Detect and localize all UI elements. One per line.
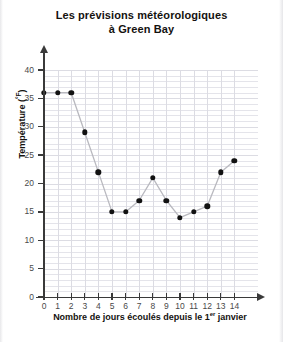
chart-title-line-1: Les prévisions météorologiques xyxy=(56,9,228,21)
x-axis-title-text-end: janvier xyxy=(215,312,247,322)
y-axis-tick-label: 15 xyxy=(0,206,34,216)
y-axis-tick-label: 0 xyxy=(0,292,34,302)
y-axis-tick xyxy=(38,154,44,155)
y-axis-tick-label: 35 xyxy=(0,93,34,103)
x-axis-tick xyxy=(98,293,99,300)
x-axis-tick xyxy=(57,293,58,300)
x-axis-line xyxy=(36,297,258,299)
x-axis-tick xyxy=(152,293,153,300)
x-axis-tick xyxy=(234,293,235,300)
x-axis-tick xyxy=(220,293,221,300)
x-axis-tick-label: 14 xyxy=(226,301,242,311)
y-axis-tick-label: 30 xyxy=(0,121,34,131)
x-axis-tick xyxy=(179,293,180,300)
chart-title: Les prévisions météorologiques à Green B… xyxy=(0,8,283,36)
chart-figure: Les prévisions météorologiques à Green B… xyxy=(0,0,283,342)
x-axis-tick xyxy=(139,293,140,300)
x-axis-tick xyxy=(111,293,112,300)
x-axis-tick xyxy=(207,293,208,300)
y-axis-tick-label: 20 xyxy=(0,178,34,188)
x-axis-tick xyxy=(193,293,194,300)
x-axis-arrow-icon xyxy=(257,293,265,301)
plot-area xyxy=(44,70,258,297)
y-axis-tick xyxy=(38,126,44,127)
y-axis-tick xyxy=(38,268,44,269)
x-axis-tick xyxy=(125,293,126,300)
x-axis-tick xyxy=(43,293,44,300)
y-axis-tick xyxy=(38,240,44,241)
y-axis-arrow-icon xyxy=(40,45,48,53)
y-axis-tick xyxy=(38,98,44,99)
series-line xyxy=(44,70,258,297)
y-axis-tick xyxy=(38,183,44,184)
x-axis-tick xyxy=(84,293,85,300)
x-axis-tick xyxy=(166,293,167,300)
chart-title-line-2: à Green Bay xyxy=(0,22,283,36)
y-axis-tick-label: 25 xyxy=(0,150,34,160)
y-axis-tick xyxy=(38,69,44,70)
y-axis-tick-label: 40 xyxy=(0,65,34,75)
y-axis-tick xyxy=(38,211,44,212)
y-axis-tick-label: 10 xyxy=(0,235,34,245)
x-axis-title: Nombre de jours écoulés depuis le 1er ja… xyxy=(30,311,270,322)
y-axis-tick-label: 5 xyxy=(0,263,34,273)
x-axis-tick xyxy=(71,293,72,300)
x-axis-title-text: Nombre de jours écoulés depuis le 1 xyxy=(53,312,210,322)
y-axis-line xyxy=(43,52,45,299)
